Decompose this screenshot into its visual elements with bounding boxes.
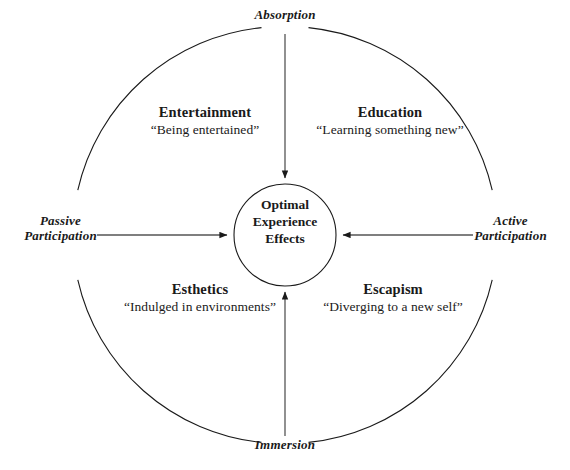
axis-label-immersion-text: Immersion xyxy=(255,437,315,452)
axis-label-passive-participation: Passive Participation xyxy=(8,213,113,244)
axis-label-absorption: Absorption xyxy=(205,7,365,22)
axis-label-passive-line2: Participation xyxy=(8,228,113,243)
axis-label-absorption-text: Absorption xyxy=(254,7,315,22)
axis-label-passive-line1: Passive xyxy=(40,213,81,228)
realm-education-title: Education xyxy=(290,104,490,121)
realm-esthetics-description: “Indulged in environments” xyxy=(95,299,305,315)
realm-esthetics: Esthetics “Indulged in environments” xyxy=(95,281,305,315)
realm-entertainment-title: Entertainment xyxy=(105,104,305,121)
realm-entertainment: Entertainment “Being entertained” xyxy=(105,104,305,138)
axis-label-active-participation: Active Participation xyxy=(458,213,563,244)
center-label-line3: Effects xyxy=(220,231,350,248)
axis-label-active-line1: Active xyxy=(493,213,527,228)
realm-esthetics-title: Esthetics xyxy=(95,281,305,298)
realm-escapism-title: Escapism xyxy=(288,281,498,298)
axis-label-immersion: Immersion xyxy=(205,437,365,452)
axis-label-active-line2: Participation xyxy=(458,228,563,243)
realm-education-description: “Learning something new” xyxy=(290,122,490,138)
experience-realms-diagram: Absorption Immersion Passive Participati… xyxy=(0,0,570,470)
realm-education: Education “Learning something new” xyxy=(290,104,490,138)
center-label-line2: Experience xyxy=(220,214,350,231)
center-label: Optimal Experience Effects xyxy=(220,197,350,248)
realm-entertainment-description: “Being entertained” xyxy=(105,122,305,138)
center-label-line1: Optimal xyxy=(220,197,350,214)
realm-escapism: Escapism “Diverging to a new self” xyxy=(288,281,498,315)
realm-escapism-description: “Diverging to a new self” xyxy=(288,299,498,315)
